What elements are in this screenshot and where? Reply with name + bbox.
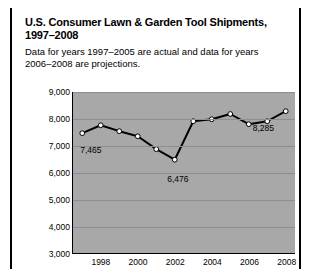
data-point-marker [135, 134, 140, 139]
chart-subtitle: Data for years 1997–2005 are actual and … [25, 46, 287, 69]
data-point-marker [98, 123, 103, 128]
chart-area: Million dollars 9,0008,0007,0006,0005,00… [25, 80, 295, 262]
x-axis-tick: 2002 [166, 257, 185, 267]
x-axis-tick: 2006 [240, 257, 259, 267]
data-point-label: 6,476 [167, 174, 188, 184]
data-point-marker [283, 109, 288, 114]
data-point-marker [80, 131, 85, 136]
y-axis-tick: 8,000 [49, 114, 70, 124]
figure-panel: U.S. Consumer Lawn & Garden Tool Shipmen… [10, 8, 301, 269]
x-axis-tick: 2000 [129, 257, 148, 267]
x-axis-tick: 1998 [91, 257, 110, 267]
x-axis-tick: 2008 [277, 257, 296, 267]
y-axis-tick: 9,000 [49, 87, 70, 97]
data-point-label: 7,465 [80, 145, 101, 155]
data-point-label: 8,285 [253, 123, 274, 133]
y-axis-tick: 3,000 [49, 249, 70, 259]
y-axis-tick: 6,000 [49, 168, 70, 178]
y-axis-label: Million dollars [0, 75, 1, 127]
x-axis-tick: 2004 [203, 257, 222, 267]
data-point-marker [154, 147, 159, 152]
y-axis-tick: 5,000 [49, 195, 70, 205]
y-axis-tick: 4,000 [49, 222, 70, 232]
gridline [73, 146, 295, 147]
gridline [73, 227, 295, 228]
gridline [73, 200, 295, 201]
y-axis-tick: 7,000 [49, 141, 70, 151]
gridline [73, 119, 295, 120]
data-point-marker [172, 157, 177, 162]
chart-title: U.S. Consumer Lawn & Garden Tool Shipmen… [25, 16, 283, 42]
data-point-marker [246, 122, 251, 127]
data-point-marker [117, 129, 122, 134]
gridline [73, 92, 295, 93]
plot-region: 9,0008,0007,0006,0005,0004,0003,00019982… [72, 92, 295, 254]
data-point-marker [228, 112, 233, 117]
